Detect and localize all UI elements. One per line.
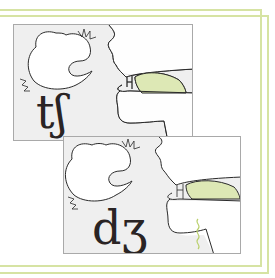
frame-bottom-inner bbox=[0, 272, 269, 274]
panel-voiceless-affricate: tʃ bbox=[13, 24, 193, 141]
panel-voiced-affricate: dʒ bbox=[63, 136, 241, 254]
frame-right-outer bbox=[260, 9, 262, 267]
burst-icon bbox=[20, 79, 30, 91]
ipa-symbol-tsh: tʃ bbox=[36, 89, 67, 135]
frame-top-outer bbox=[0, 9, 262, 11]
ipa-symbol-dzh: dʒ bbox=[92, 205, 147, 251]
frame-right-inner bbox=[267, 15, 269, 274]
frame-top-inner bbox=[0, 15, 269, 17]
air-pressure-cloud-icon bbox=[28, 32, 92, 89]
tongue-icon bbox=[186, 181, 240, 199]
burst-icon bbox=[68, 197, 78, 209]
air-pressure-cloud-icon bbox=[65, 144, 132, 202]
frame-bottom-outer bbox=[0, 265, 262, 267]
articulation-diagram bbox=[64, 137, 241, 254]
